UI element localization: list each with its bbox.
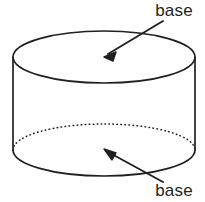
cylinder-bottom-back-arc xyxy=(13,124,195,150)
cylinder-figure: base base xyxy=(0,0,205,202)
bottom-base-arrow-icon xyxy=(104,149,163,182)
cylinder-bottom-front-arc xyxy=(13,150,195,176)
top-base-arrow-icon xyxy=(104,21,163,61)
cylinder-side-walls xyxy=(13,57,195,150)
top-base-label: base xyxy=(155,1,193,20)
bottom-base-label: base xyxy=(155,181,193,200)
